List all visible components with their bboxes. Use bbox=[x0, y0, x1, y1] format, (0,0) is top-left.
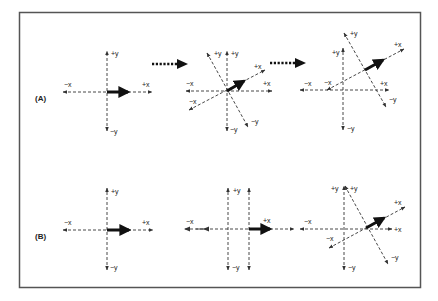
label-a2-rnx: −x bbox=[189, 98, 197, 105]
vector-arrow-b3 bbox=[366, 218, 384, 228]
panel-a3 bbox=[300, 33, 404, 130]
transform-diagram: (A) +y −y −x +x +y +y +x +x −x −x −y −y … bbox=[0, 0, 438, 301]
label-a3-py: +y bbox=[332, 49, 340, 57]
row-label-b: (B) bbox=[35, 232, 46, 241]
label-a3-rpy: +y bbox=[350, 30, 358, 38]
step-arrow-a1 bbox=[152, 59, 188, 69]
label-a2-rpy: +y bbox=[214, 50, 222, 58]
label-a2-ny: −y bbox=[230, 126, 238, 134]
vector-arrow-a3 bbox=[365, 60, 383, 70]
label-a3-rpx: +x bbox=[394, 41, 402, 48]
label-a3-rnx: −x bbox=[324, 79, 332, 86]
panel-b3 bbox=[300, 186, 405, 270]
label-a2-px: +x bbox=[263, 80, 271, 87]
row-label-a: (A) bbox=[35, 94, 46, 103]
label-b1-px: +x bbox=[142, 219, 150, 226]
label-b1-nx: −x bbox=[64, 219, 72, 226]
label-b3-py: +y bbox=[331, 185, 339, 193]
label-a3-nx: −x bbox=[304, 80, 312, 87]
label-b3-rny: −y bbox=[391, 254, 399, 262]
label-a2-rny: −y bbox=[251, 118, 259, 126]
label-b1-ny: −y bbox=[110, 264, 118, 272]
panel-b2 bbox=[185, 188, 294, 270]
vector-arrow-a2 bbox=[227, 81, 244, 91]
label-b3-nx: −x bbox=[304, 218, 312, 225]
label-b3-ny: −y bbox=[348, 264, 356, 272]
label-a2-nx: −x bbox=[186, 80, 194, 87]
label-a1-ny: −y bbox=[110, 128, 118, 136]
translated-axis-x-left-arrowhead bbox=[203, 227, 209, 232]
label-b1-py: +y bbox=[111, 188, 119, 196]
axis-x-left-arrowhead bbox=[184, 227, 190, 232]
label-a1-px: +x bbox=[142, 81, 150, 88]
label-a3-px: +x bbox=[380, 80, 388, 87]
label-a1-py: +y bbox=[111, 50, 119, 58]
label-b3-rnx: −x bbox=[326, 235, 334, 242]
label-b2-px: +x bbox=[263, 217, 271, 224]
label-b3-rpx: +x bbox=[394, 199, 402, 206]
label-b2-py: +y bbox=[233, 187, 241, 195]
label-a2-py: +y bbox=[231, 50, 239, 58]
label-b2-nx: −x bbox=[186, 218, 194, 225]
label-a2-rpx: +x bbox=[254, 63, 262, 70]
rotated-axis-y bbox=[345, 186, 388, 264]
label-a3-rny: −y bbox=[389, 96, 397, 104]
label-b2-ny: −y bbox=[232, 264, 240, 272]
label-a1-nx: −x bbox=[64, 81, 72, 88]
label-a3-ny: −y bbox=[347, 125, 355, 133]
step-arrow-a2 bbox=[270, 58, 306, 68]
label-b3-rpy: +y bbox=[350, 185, 358, 193]
label-b3-px: +x bbox=[394, 226, 402, 233]
